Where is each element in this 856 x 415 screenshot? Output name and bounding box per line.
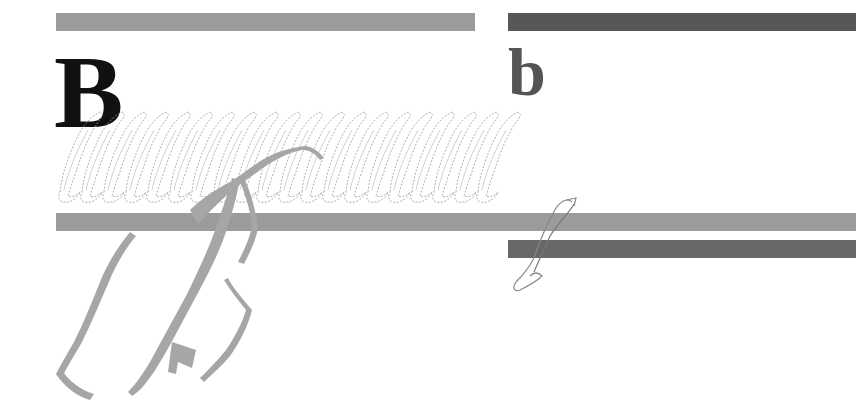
panel-b-monomer-trace [514, 198, 576, 291]
highlighted-monomer-ribbon [56, 146, 324, 400]
stacked-monomers [59, 112, 520, 202]
fibril-stack-illustration [0, 0, 856, 415]
